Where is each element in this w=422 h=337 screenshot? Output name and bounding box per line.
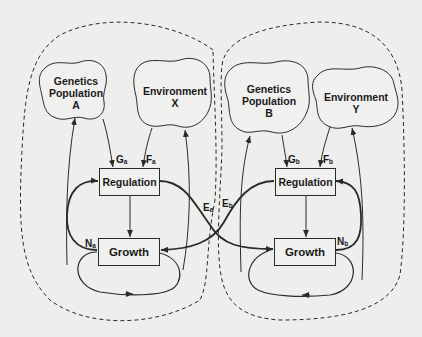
environment-x-label: Environment X <box>138 82 212 112</box>
label-f-a: Fa <box>146 154 156 165</box>
genetics-b-line1: Genetics <box>247 83 291 95</box>
label-n-a: Na <box>85 238 96 249</box>
label-g-a: Ga <box>116 154 127 165</box>
growth-box-b: Growth <box>274 238 336 266</box>
environment-x-line1: Environment <box>143 85 207 97</box>
genetics-a-line2: Population <box>49 87 103 99</box>
environment-y-line1: Environment <box>324 91 388 103</box>
label-e-b: Eb <box>222 198 233 209</box>
e-a-link <box>160 181 273 249</box>
environment-x-line2: X <box>171 97 178 109</box>
genetics-b-line2: Population <box>242 95 296 107</box>
genetics-b-line3: B <box>265 107 273 119</box>
label-n-b: Nb <box>337 236 348 247</box>
regulation-box-a: Regulation <box>99 168 160 196</box>
label-e-a: Ea <box>203 202 213 213</box>
environment-y-label: Environment Y <box>318 88 394 118</box>
label-g-b: Gb <box>288 154 300 165</box>
genetics-a-line1: Genetics <box>54 75 98 87</box>
genetics-population-a-label: Genetics Population A <box>44 72 108 114</box>
label-f-b: Fb <box>323 154 333 165</box>
e-b-link <box>161 181 274 250</box>
growth-box-a: Growth <box>98 238 160 266</box>
interaction-diagram <box>0 0 422 337</box>
genetics-population-b-label: Genetics Population B <box>234 80 304 122</box>
genetics-a-line3: A <box>72 99 80 111</box>
regulation-box-b: Regulation <box>275 168 336 196</box>
environment-y-line2: Y <box>352 103 359 115</box>
